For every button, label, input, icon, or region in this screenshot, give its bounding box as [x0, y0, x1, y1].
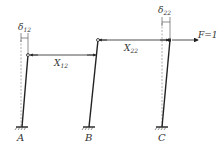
column-b-deflected: [89, 40, 98, 127]
link-x22: X22: [99, 39, 171, 55]
column-c-label: C: [158, 132, 166, 143]
column-b: [82, 39, 100, 131]
force-label: F=1: [197, 30, 218, 40]
delta12-label: δ12: [18, 22, 31, 33]
link-x12: X12: [27, 54, 97, 70]
column-a: [15, 40, 28, 130]
delta22-label: δ22: [158, 5, 171, 16]
column-c-deflected: [162, 40, 170, 127]
node-c-top-icon: [168, 39, 171, 42]
link-x22-label: X22: [123, 43, 138, 54]
column-a-deflected: [22, 55, 28, 127]
column-a-label: A: [16, 132, 24, 143]
column-c: [155, 23, 170, 130]
column-b-label: B: [84, 132, 92, 143]
delta22-dimension: δ22: [158, 5, 171, 40]
force-f: F=1: [172, 30, 218, 40]
link-x12-label: X12: [53, 58, 68, 69]
frame-diagram: X12 X22 δ12 δ22 F=1 A B C: [0, 0, 221, 147]
delta12-dimension: δ12: [18, 22, 31, 55]
